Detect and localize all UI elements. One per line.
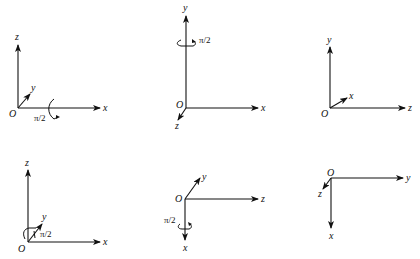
origin-label: O — [327, 167, 334, 178]
z-axis-label: z — [407, 102, 412, 113]
x-axis-label: x — [102, 236, 108, 247]
coordinate-frames-figure: z x y O π/2 y x z O π/2 y z x O z x y — [0, 0, 420, 259]
y-axis-label: y — [201, 171, 207, 182]
origin-label: O — [9, 108, 16, 119]
y-axis-label: y — [182, 2, 188, 13]
origin-label: O — [321, 108, 328, 119]
z-axis-label: z — [174, 120, 179, 131]
x-axis-label: x — [348, 90, 354, 101]
origin-label: O — [176, 99, 183, 110]
x-axis-label: x — [102, 102, 108, 113]
y-axis-label: y — [326, 34, 332, 45]
x-axis-label: x — [328, 230, 334, 241]
frame-diagram-4: z x y O π/2 — [18, 157, 108, 254]
frame-diagram-3: y z x O — [321, 34, 412, 119]
y-axis-label: y — [405, 172, 411, 183]
z-axis-label: z — [24, 157, 29, 168]
rotation-angle-label: π/2 — [164, 215, 176, 225]
y-axis-label: y — [30, 82, 36, 93]
y-axis — [185, 178, 200, 199]
frame-diagram-2: y x z O π/2 — [174, 2, 266, 131]
rotation-arrowhead-icon — [56, 115, 60, 119]
origin-label: O — [175, 193, 182, 204]
rotation-angle-label: π/2 — [40, 229, 52, 239]
x-axis-label: x — [182, 242, 188, 253]
x-axis-label: x — [260, 102, 266, 113]
z-axis-label: z — [260, 193, 265, 204]
rotation-angle-label: π/2 — [34, 113, 46, 123]
z-axis-label: z — [14, 31, 19, 42]
z-axis-label: z — [317, 188, 322, 199]
origin-label: O — [18, 243, 25, 254]
frame-diagram-6: y x z O — [317, 167, 411, 241]
y-axis-label: y — [41, 211, 47, 222]
frame-diagram-1: z x y O π/2 — [9, 31, 108, 123]
z-axis — [323, 178, 331, 189]
y-axis — [18, 94, 30, 108]
frame-diagram-5: z x y O π/2 — [164, 171, 265, 253]
x-axis — [330, 98, 347, 108]
rotation-tick-icon — [34, 231, 35, 238]
rotation-angle-label: π/2 — [199, 35, 211, 45]
